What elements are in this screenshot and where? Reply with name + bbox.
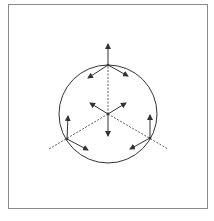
vector-arrow [108, 65, 128, 76]
vector-arrow [67, 116, 68, 139]
point-marker [107, 64, 110, 67]
vector-arrow [88, 65, 108, 78]
dashed-axis-line [49, 114, 108, 149]
vector-arrow [108, 103, 126, 114]
point-marker [66, 138, 69, 141]
vector-arrow [90, 103, 108, 114]
dashed-axis-line [108, 114, 168, 149]
point-marker [149, 137, 152, 140]
vector-arrows [66, 44, 152, 150]
vector-field-diagram [0, 0, 214, 221]
point-marker [107, 113, 110, 116]
